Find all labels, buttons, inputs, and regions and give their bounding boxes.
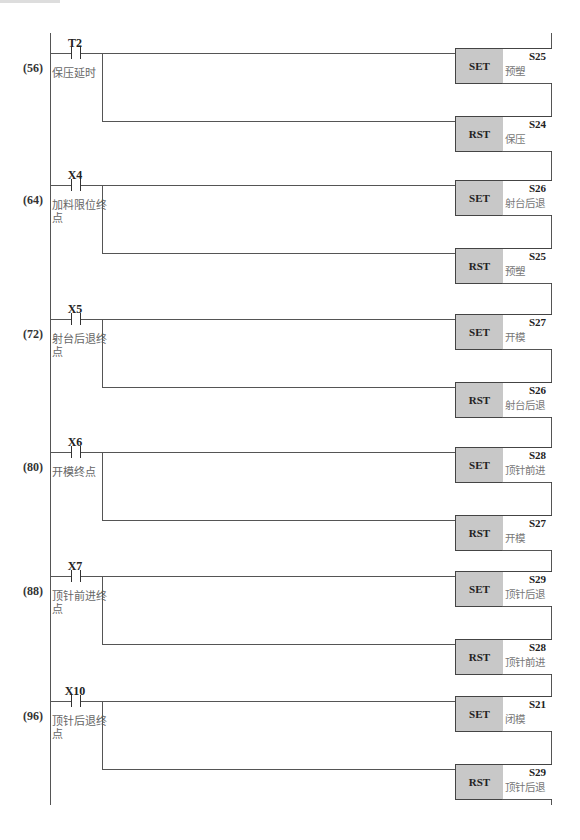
rung-wire [51,185,71,186]
branch-wire [102,520,455,521]
branch-wire [102,769,455,770]
box-bottom-wire [502,799,551,800]
box-bottom-wire [502,215,551,216]
rung-wire [81,576,455,577]
branch-wire [102,53,103,121]
step-number: (96) [3,709,43,724]
top-edge-artifact [0,0,60,3]
device-label: S29 [529,573,546,585]
step-number: (72) [3,327,43,342]
instruction-label: SET [456,697,503,731]
instruction-label: RST [456,516,503,550]
rst-instruction-box[interactable]: RST S29 顶针后退 [455,764,552,800]
set-instruction-box[interactable]: SET S26 射台后退 [455,180,552,216]
instruction-label: SET [456,49,503,83]
device-comment: 闭模 [505,711,525,726]
device-label: S26 [529,384,546,396]
device-label: S28 [529,449,546,461]
device-label: S27 [529,517,546,529]
contact-comment: 保压延时 [52,67,112,80]
set-instruction-box[interactable]: SET S29 顶针后退 [455,571,552,607]
branch-wire [102,253,455,254]
instruction-label: SET [456,448,503,482]
contact-comment: 顶针前进终点 [52,590,112,616]
rst-instruction-box[interactable]: RST S25 预塑 [455,248,552,284]
instruction-label: SET [456,181,503,215]
rst-instruction-box[interactable]: RST S24 保压 [455,116,552,152]
device-label: S29 [529,766,546,778]
device-comment: 开模 [505,530,525,545]
device-comment: 顶针后退 [505,586,545,601]
set-instruction-box[interactable]: SET S27 开模 [455,314,552,350]
instruction-label: SET [456,572,503,606]
device-comment: 开模 [505,329,525,344]
left-power-rail [50,33,51,805]
box-bottom-wire [502,606,551,607]
branch-wire [102,576,103,644]
rung-wire [51,701,71,702]
rung-wire [81,53,455,54]
contact-comment: 开模终点 [52,466,112,479]
device-label: S25 [529,50,546,62]
instruction-label: RST [456,383,503,417]
device-label: S28 [529,641,546,653]
device-comment: 预塑 [505,263,525,278]
branch-wire [102,452,103,520]
device-comment: 顶针前进 [505,654,545,669]
rung-wire [81,452,455,453]
rst-instruction-box[interactable]: RST S26 射台后退 [455,382,552,418]
rung-wire [51,53,71,54]
contact-comment: 射台后退终点 [52,333,112,359]
contact-comment: 加料限位终点 [52,199,112,225]
rung-wire [51,319,71,320]
box-bottom-wire [502,731,551,732]
branch-wire [102,319,103,387]
device-label: S26 [529,182,546,194]
device-comment: 顶针前进 [505,462,545,477]
rung-wire [81,701,455,702]
set-instruction-box[interactable]: SET S28 顶针前进 [455,447,552,483]
instruction-label: SET [456,315,503,349]
instruction-label: RST [456,765,503,799]
branch-wire [102,387,455,388]
contact-comment: 顶针后退终点 [52,715,112,741]
box-bottom-wire [502,349,551,350]
step-number: (88) [3,584,43,599]
instruction-label: RST [456,249,503,283]
rung-wire [51,576,71,577]
device-comment: 保压 [505,131,525,146]
set-instruction-box[interactable]: SET S25 预塑 [455,48,552,84]
device-label: S21 [529,698,546,710]
step-number: (56) [3,61,43,76]
device-comment: 预塑 [505,63,525,78]
box-bottom-wire [502,674,551,675]
step-number: (64) [3,193,43,208]
rung-wire [81,319,455,320]
step-number: (80) [3,460,43,475]
instruction-label: RST [456,117,503,151]
rung-wire [81,185,455,186]
box-bottom-wire [502,283,551,284]
box-bottom-wire [502,151,551,152]
box-bottom-wire [502,482,551,483]
device-comment: 射台后退 [505,397,545,412]
device-comment: 射台后退 [505,195,545,210]
branch-wire [102,121,455,122]
box-bottom-wire [502,550,551,551]
set-instruction-box[interactable]: SET S21 闭模 [455,696,552,732]
instruction-label: RST [456,640,503,674]
device-label: S25 [529,250,546,262]
branch-wire [102,185,103,253]
branch-wire [102,644,455,645]
device-label: S27 [529,316,546,328]
box-bottom-wire [502,417,551,418]
device-comment: 顶针后退 [505,779,545,794]
rst-instruction-box[interactable]: RST S27 开模 [455,515,552,551]
rst-instruction-box[interactable]: RST S28 顶针前进 [455,639,552,675]
device-label: S24 [529,118,546,130]
rung-wire [51,452,71,453]
box-bottom-wire [502,83,551,84]
branch-wire [102,701,103,769]
